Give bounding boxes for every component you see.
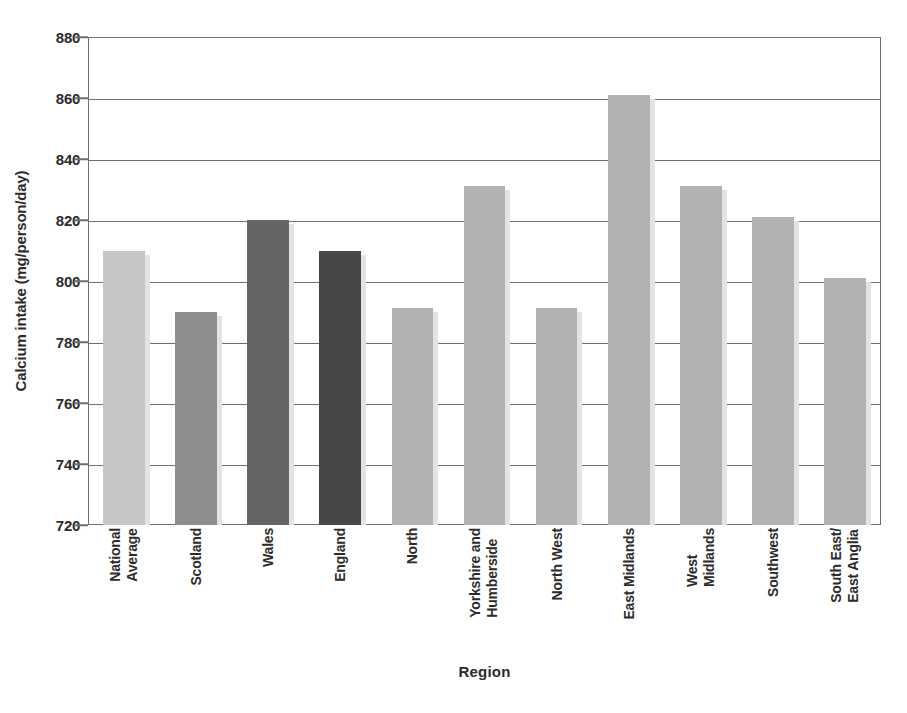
x-tick-label: North West (521, 528, 593, 654)
y-tick-mark (74, 524, 88, 526)
y-tick-label: 720 (20, 517, 80, 534)
gridline (89, 99, 880, 100)
y-tick-label: 820 (20, 212, 80, 229)
y-tick-mark (74, 36, 88, 38)
y-tick-label: 800 (20, 273, 80, 290)
x-tick-label: Yorkshire andHumberside (448, 528, 520, 654)
x-tick-label: Wales (232, 528, 304, 654)
x-axis-tick-labels: NationalAverageScotlandWalesEnglandNorth… (88, 528, 881, 654)
gridline (89, 465, 880, 466)
y-tick-mark (74, 402, 88, 404)
y-axis-ticks: 880860840820800780760740720 (0, 37, 80, 525)
gridline (89, 221, 880, 222)
gridline (89, 343, 880, 344)
y-tick-label: 740 (20, 456, 80, 473)
x-tick-label: Southwest (737, 528, 809, 654)
plot-area (88, 37, 881, 525)
y-tick-mark (74, 463, 88, 465)
y-tick-label: 840 (20, 151, 80, 168)
gridline (89, 160, 880, 161)
x-tick-label: East Midlands (593, 528, 665, 654)
x-tick-label: WestMidlands (665, 528, 737, 654)
x-tick-label: South East/East Anglia (809, 528, 881, 654)
gridline (89, 404, 880, 405)
y-tick-mark (74, 280, 88, 282)
y-tick-label: 760 (20, 395, 80, 412)
x-tick-label: North (376, 528, 448, 654)
y-tick-mark (74, 219, 88, 221)
x-tick-label: Scotland (160, 528, 232, 654)
x-axis-title: Region (88, 663, 881, 680)
y-tick-mark (74, 341, 88, 343)
x-tick-label: NationalAverage (88, 528, 160, 654)
x-tick-label: England (304, 528, 376, 654)
y-tick-mark (74, 97, 88, 99)
y-tick-label: 880 (20, 29, 80, 46)
y-tick-label: 780 (20, 334, 80, 351)
y-tick-label: 860 (20, 90, 80, 107)
bar-chart: Calcium intake (mg/person/day) 880860840… (0, 0, 907, 713)
gridline (89, 282, 880, 283)
y-tick-mark (74, 158, 88, 160)
